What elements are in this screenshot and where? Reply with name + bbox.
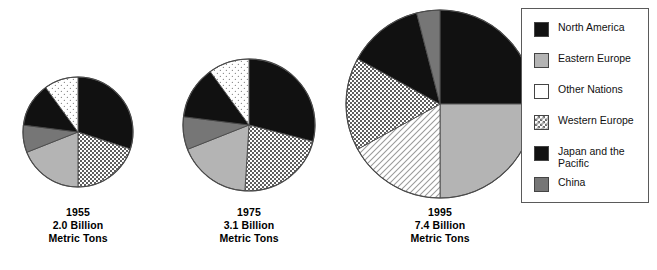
legend-label-other-nations: Other Nations [558, 83, 623, 95]
legend-item-western-europe[interactable]: Western Europe [534, 114, 634, 130]
legend-swatch-china [534, 177, 549, 192]
caption-amount: 7.4 Billion [380, 219, 500, 232]
caption-1975: 1975 3.1 Billion Metric Tons [189, 206, 309, 246]
pie-slice-north-america[interactable] [440, 10, 534, 104]
caption-year: 1955 [18, 206, 138, 219]
legend-swatch-western-europe [534, 115, 549, 130]
caption-year: 1975 [189, 206, 309, 219]
legend-item-north-america[interactable]: North America [534, 21, 625, 37]
pie-1975 [183, 59, 315, 191]
caption-1995: 1995 7.4 Billion Metric Tons [380, 206, 500, 246]
caption-amount: 3.1 Billion [189, 219, 309, 232]
legend-swatch-japan-and-the-pacific [534, 146, 549, 161]
legend-label-china: China [558, 176, 585, 188]
caption-unit: Metric Tons [189, 232, 309, 245]
caption-unit: Metric Tons [18, 232, 138, 245]
caption-1955: 1955 2.0 Billion Metric Tons [18, 206, 138, 246]
legend-item-other-nations[interactable]: Other Nations [534, 83, 623, 99]
legend: North America Eastern Europe Other Natio… [521, 8, 649, 203]
pie-slice-eastern-europe[interactable] [440, 104, 534, 198]
legend-label-western-europe: Western Europe [558, 114, 634, 126]
legend-swatch-north-america [534, 22, 549, 37]
legend-label-japan-and-the-pacific: Japan and the Pacific [558, 145, 648, 170]
legend-item-china[interactable]: China [534, 176, 585, 192]
legend-swatch-other-nations [534, 84, 549, 99]
legend-item-japan-and-the-pacific[interactable]: Japan and the Pacific [534, 145, 648, 170]
legend-item-eastern-europe[interactable]: Eastern Europe [534, 52, 631, 68]
caption-year: 1995 [380, 206, 500, 219]
caption-unit: Metric Tons [380, 232, 500, 245]
pie-1995 [346, 10, 534, 198]
caption-amount: 2.0 Billion [18, 219, 138, 232]
legend-swatch-eastern-europe [534, 53, 549, 68]
pie-1955 [23, 77, 133, 187]
legend-label-north-america: North America [558, 21, 625, 33]
legend-label-eastern-europe: Eastern Europe [558, 52, 631, 64]
